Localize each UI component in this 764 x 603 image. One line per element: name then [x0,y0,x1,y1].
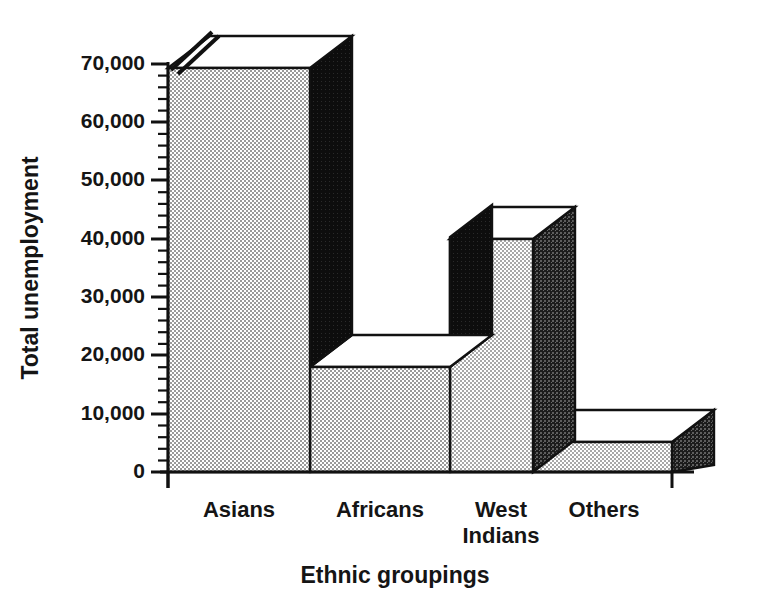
category-label-others: Others [569,497,640,522]
y-axis-title: Total unemployment [17,156,43,380]
bar-africans-front-face [310,367,450,472]
bar-west-indians-side-face [533,207,575,472]
category-label-west-indians-line2: Indians [462,523,539,548]
bar-asians-front-face [168,68,310,472]
y-tick-label-20000: 20,000 [81,342,145,365]
y-tick-label-10000: 10,000 [81,401,145,424]
y-tick-label-60000: 60,000 [81,109,145,132]
category-label-africans: Africans [336,497,424,522]
bar-chart-svg: 70,000 60,000 50,000 40,000 30,000 20,00… [0,0,764,603]
category-label-asians: Asians [203,497,275,522]
y-tick-label-0: 0 [133,459,145,482]
y-tick-label-50000: 50,000 [81,167,145,190]
y-tick-label-70000: 70,000 [81,51,145,74]
y-tick-label-30000: 30,000 [81,284,145,307]
y-tick-label-40000: 40,000 [81,226,145,249]
category-label-west-indians-line1: West [475,497,528,522]
x-axis-title: Ethnic groupings [300,562,489,588]
bar-asians-side-face [310,36,352,367]
chart-container: 70,000 60,000 50,000 40,000 30,000 20,00… [0,0,764,603]
